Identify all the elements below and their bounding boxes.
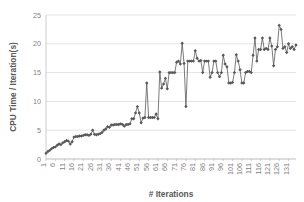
x-tick-label: 41 — [114, 163, 123, 171]
y-tick-label: 0 — [37, 155, 41, 164]
x-tick-label: 6 — [48, 163, 57, 167]
x-tick-label: 1 — [39, 163, 48, 167]
x-tick-label: 101 — [226, 163, 235, 175]
x-tick-label: 76 — [179, 163, 188, 171]
chart-container: 0510152025 16111621263136414651566166717… — [0, 0, 304, 202]
y-tick-label: 5 — [37, 126, 41, 135]
x-tick-label: 96 — [216, 163, 225, 171]
x-tick-label: 56 — [142, 163, 151, 171]
x-tick-label: 91 — [207, 163, 216, 171]
x-tick-label: 51 — [132, 163, 141, 171]
x-tick-label: 121 — [263, 163, 272, 175]
x-tick-label: 11 — [58, 163, 67, 170]
x-tick-label: 61 — [151, 163, 160, 171]
cpu-time-line-chart: 0510152025 16111621263136414651566166717… — [0, 0, 304, 202]
x-tick-label: 111 — [244, 163, 253, 174]
x-tick-label: 21 — [76, 163, 85, 171]
x-tick-label: 16 — [67, 163, 76, 171]
y-tick-label: 25 — [33, 11, 41, 20]
y-axis-title: CPU Time / Iteration(s) — [8, 42, 18, 132]
x-tick-label: 46 — [123, 163, 132, 171]
x-tick-label: 106 — [235, 163, 244, 175]
x-tick-label: 126 — [272, 163, 281, 175]
x-tick-label: 26 — [86, 163, 95, 171]
y-tick-label: 15 — [33, 68, 41, 77]
y-tick-label: 20 — [33, 39, 41, 48]
x-tick-label: 66 — [160, 163, 169, 171]
x-tick-label: 131 — [282, 163, 291, 175]
x-tick-label: 71 — [170, 163, 179, 171]
x-tick-label: 81 — [188, 163, 197, 171]
x-axis-title: # Iterations — [149, 189, 194, 199]
x-tick-label: 86 — [198, 163, 207, 171]
x-tick-label: 36 — [104, 163, 113, 171]
x-tick-label: 116 — [254, 163, 263, 174]
y-tick-label: 10 — [33, 97, 41, 106]
x-tick-label: 31 — [95, 163, 104, 171]
